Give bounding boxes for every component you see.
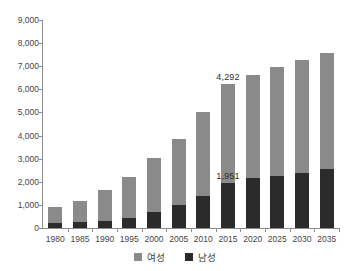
bar-column[interactable] (246, 20, 260, 228)
x-axis-tick-label: 2005 (169, 234, 188, 244)
y-axis-tick-label: 7,000 (18, 61, 39, 71)
x-axis-tick-label: 2020 (243, 234, 262, 244)
legend-label-female: 여성 (147, 250, 165, 264)
stacked-bar-chart: 01,0002,0003,0004,0005,0006,0007,0008,00… (0, 0, 349, 271)
bar-segment-female[interactable] (172, 139, 186, 205)
y-axis-tick-label: 4,000 (18, 131, 39, 141)
stacked-bar[interactable] (73, 201, 87, 229)
legend-item-female[interactable]: 여성 (134, 250, 165, 264)
bar-segment-female[interactable] (98, 190, 112, 221)
bar-segment-male[interactable] (295, 173, 309, 228)
x-axis-tick-label: 1990 (95, 234, 114, 244)
bar-segment-male[interactable] (270, 176, 284, 228)
legend-swatch-female-icon (134, 253, 142, 261)
bar-column[interactable] (122, 20, 136, 228)
bar-segment-male[interactable] (320, 169, 334, 228)
plot-area: 01,0002,0003,0004,0005,0006,0007,0008,00… (42, 20, 339, 229)
bar-segment-female[interactable] (320, 53, 334, 169)
x-axis-tick-label: 2030 (293, 234, 312, 244)
x-axis-tick-mark (166, 228, 167, 232)
stacked-bar[interactable] (320, 53, 334, 228)
bar-column[interactable] (73, 20, 87, 228)
bar-segment-male[interactable] (172, 205, 186, 228)
x-axis-tick-mark (314, 228, 315, 232)
stacked-bar[interactable] (48, 207, 62, 228)
stacked-bar[interactable] (246, 75, 260, 228)
bar-segment-male[interactable] (221, 183, 235, 228)
y-axis-tick-label: 6,000 (18, 84, 39, 94)
bar-segment-female[interactable] (221, 84, 235, 183)
x-axis-tick-mark (265, 228, 266, 232)
y-axis-tick-mark (39, 228, 43, 229)
x-axis-tick-mark (290, 228, 291, 232)
stacked-bar[interactable] (221, 84, 235, 228)
bar-column[interactable] (295, 20, 309, 228)
bar-column[interactable] (221, 20, 235, 228)
y-axis-tick-label: 1,000 (18, 200, 39, 210)
legend-item-male[interactable]: 남성 (185, 250, 216, 264)
x-axis-tick-mark (339, 228, 340, 232)
x-axis-tick-mark (92, 228, 93, 232)
x-axis-tick-label: 2025 (268, 234, 287, 244)
y-axis-tick-label: 8,000 (18, 38, 39, 48)
bar-column[interactable] (320, 20, 334, 228)
stacked-bar[interactable] (270, 67, 284, 228)
legend-label-male: 남성 (198, 250, 216, 264)
x-axis-tick-mark (117, 228, 118, 232)
y-axis-tick-label: 2,000 (18, 177, 39, 187)
x-axis-tick-label: 2015 (219, 234, 238, 244)
x-axis-tick-mark (142, 228, 143, 232)
bar-segment-male[interactable] (122, 218, 136, 228)
x-axis-tick-mark (240, 228, 241, 232)
x-axis-tick-label: 2035 (317, 234, 336, 244)
bar-segment-male[interactable] (147, 212, 161, 228)
y-axis-tick-label: 9,000 (18, 15, 39, 25)
legend-swatch-male-icon (185, 253, 193, 261)
bar-segment-male[interactable] (48, 223, 62, 228)
y-axis-tick-label: 5,000 (18, 107, 39, 117)
x-axis-tick-label: 1980 (46, 234, 65, 244)
bar-segment-male[interactable] (196, 196, 210, 228)
bar-column[interactable] (147, 20, 161, 228)
x-axis-tick-mark (68, 228, 69, 232)
data-label: 4,292 (216, 72, 240, 82)
bar-segment-female[interactable] (270, 67, 284, 176)
stacked-bar[interactable] (147, 158, 161, 228)
bar-column[interactable] (196, 20, 210, 228)
bar-segment-female[interactable] (147, 158, 161, 212)
bar-segment-male[interactable] (73, 222, 87, 228)
stacked-bar[interactable] (196, 112, 210, 228)
bar-segment-female[interactable] (196, 112, 210, 196)
chart-legend: 여성 남성 (0, 250, 349, 264)
bar-column[interactable] (270, 20, 284, 228)
bar-segment-female[interactable] (73, 201, 87, 223)
x-axis-tick-label: 2010 (194, 234, 213, 244)
bar-series-container (43, 20, 339, 228)
bar-column[interactable] (98, 20, 112, 228)
x-axis-tick-label: 1985 (71, 234, 90, 244)
x-axis-tick-mark (191, 228, 192, 232)
bar-segment-male[interactable] (98, 221, 112, 228)
bar-column[interactable] (172, 20, 186, 228)
bar-segment-female[interactable] (48, 207, 62, 224)
stacked-bar[interactable] (172, 139, 186, 228)
y-axis-tick-label: 3,000 (18, 154, 39, 164)
x-axis-tick-label: 2000 (145, 234, 164, 244)
bar-segment-male[interactable] (246, 178, 260, 228)
bar-segment-female[interactable] (122, 177, 136, 217)
stacked-bar[interactable] (295, 60, 309, 228)
bar-segment-female[interactable] (246, 75, 260, 179)
x-axis-tick-label: 1995 (120, 234, 139, 244)
bar-segment-female[interactable] (295, 60, 309, 173)
bar-column[interactable] (48, 20, 62, 228)
stacked-bar[interactable] (122, 177, 136, 228)
stacked-bar[interactable] (98, 190, 112, 228)
x-axis-tick-mark (216, 228, 217, 232)
data-label: 1,951 (216, 171, 240, 181)
